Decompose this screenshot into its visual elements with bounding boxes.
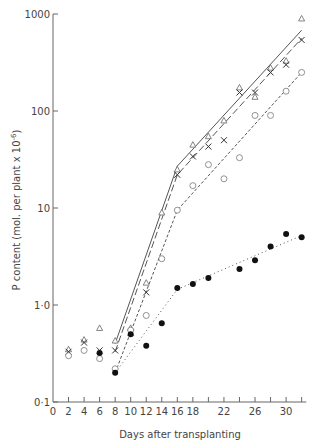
marker-triangle bbox=[81, 337, 87, 343]
marker-open-circle bbox=[221, 176, 227, 182]
marker-cross bbox=[143, 289, 149, 295]
marker-open-circle bbox=[66, 353, 72, 359]
data-points bbox=[66, 15, 305, 375]
marker-triangle bbox=[236, 84, 242, 90]
marker-filled-circle bbox=[283, 231, 289, 237]
x-tick-label: 22 bbox=[218, 406, 231, 417]
marker-filled-circle bbox=[205, 275, 211, 281]
x-tick-label: 4 bbox=[81, 406, 87, 417]
marker-filled-circle bbox=[268, 244, 274, 250]
y-tick-label: 0·1 bbox=[34, 397, 50, 408]
marker-filled-circle bbox=[236, 266, 242, 272]
marker-triangle bbox=[159, 209, 165, 215]
marker-cross bbox=[112, 347, 118, 353]
marker-open-circle bbox=[190, 183, 196, 189]
marker-filled-circle bbox=[159, 320, 165, 326]
y-axis-label: P content (mol. per plant x 10-6) bbox=[10, 130, 22, 291]
marker-open-circle bbox=[268, 112, 274, 118]
marker-open-circle bbox=[205, 162, 211, 168]
marker-triangle bbox=[190, 142, 196, 148]
marker-open-circle bbox=[174, 207, 180, 213]
marker-cross bbox=[205, 144, 211, 150]
x-tick-label: 0 bbox=[50, 406, 56, 417]
marker-filled-circle bbox=[174, 285, 180, 291]
marker-cross bbox=[174, 172, 180, 178]
x-tick-label: 10 bbox=[124, 406, 137, 417]
marker-cross bbox=[221, 137, 227, 143]
x-tick-label: 12 bbox=[140, 406, 153, 417]
marker-filled-circle bbox=[97, 350, 103, 356]
marker-filled-circle bbox=[299, 234, 305, 240]
x-tick-label: 26 bbox=[249, 406, 262, 417]
marker-open-circle bbox=[252, 112, 258, 118]
marker-filled-circle bbox=[252, 257, 258, 263]
marker-triangle bbox=[268, 65, 274, 71]
fit-line-triangle bbox=[115, 30, 301, 343]
marker-open-circle bbox=[283, 88, 289, 94]
marker-open-circle bbox=[97, 356, 103, 362]
marker-filled-circle bbox=[190, 281, 196, 287]
marker-open-circle bbox=[143, 312, 149, 318]
y-tick-label: 1000 bbox=[25, 9, 50, 20]
x-axis-label: Days after transplanting bbox=[119, 429, 241, 440]
marker-cross bbox=[190, 153, 196, 159]
marker-triangle bbox=[143, 280, 149, 286]
marker-open-circle bbox=[81, 347, 87, 353]
x-tick-label: 8 bbox=[112, 406, 118, 417]
x-tick-label: 18 bbox=[186, 406, 199, 417]
marker-triangle bbox=[299, 15, 305, 21]
phosphorus-content-chart: 0·11·0101001000024681012141618222630 Day… bbox=[0, 0, 315, 445]
y-tick-label: 10 bbox=[37, 203, 50, 214]
y-tick-label: 100 bbox=[31, 106, 50, 117]
marker-filled-circle bbox=[143, 343, 149, 349]
marker-filled-circle bbox=[112, 370, 118, 376]
marker-open-circle bbox=[159, 256, 165, 262]
x-tick-label: 6 bbox=[96, 406, 102, 417]
x-tick-label: 30 bbox=[280, 406, 293, 417]
marker-triangle bbox=[97, 325, 103, 331]
marker-open-circle bbox=[299, 69, 305, 75]
fit-line-filled-circle bbox=[115, 236, 301, 373]
fit-line-cross bbox=[115, 38, 301, 351]
marker-filled-circle bbox=[128, 331, 134, 337]
fit-line-open-circle bbox=[115, 72, 301, 372]
x-tick-label: 16 bbox=[171, 406, 184, 417]
y-tick-label: 1·0 bbox=[34, 300, 50, 311]
marker-cross bbox=[299, 37, 305, 43]
x-tick-label: 14 bbox=[155, 406, 168, 417]
marker-cross bbox=[236, 90, 242, 96]
fit-lines bbox=[115, 30, 301, 373]
marker-triangle bbox=[174, 166, 180, 172]
marker-open-circle bbox=[236, 155, 242, 161]
x-tick-label: 2 bbox=[65, 406, 71, 417]
